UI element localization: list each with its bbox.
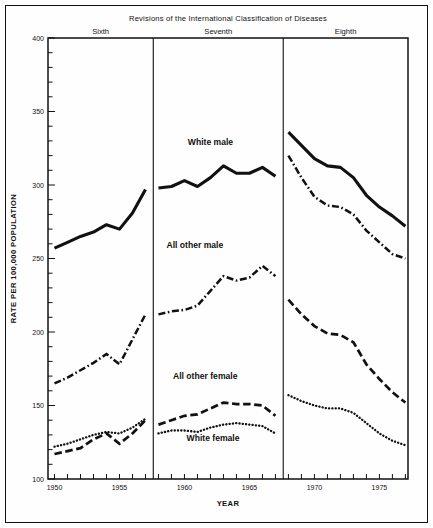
- x-tick-label-1965: 1965: [242, 484, 258, 491]
- period-label-eighth: Eighth: [335, 27, 357, 36]
- x-tick-label-1955: 1955: [112, 484, 128, 491]
- chart-canvas: Revisions of the International Classific…: [0, 0, 433, 528]
- y-tick-label-200: 200: [32, 329, 44, 336]
- series-label-all-other-female: All other female: [173, 371, 238, 381]
- series-label-white-female: White female: [187, 433, 240, 443]
- x-axis-title: YEAR: [217, 499, 240, 508]
- chart-figure: Revisions of the International Classific…: [0, 0, 433, 528]
- series-label-white-male: White male: [188, 137, 234, 147]
- series-all-other-female: All other female: [55, 300, 406, 454]
- y-tick-label-250: 250: [32, 255, 44, 262]
- y-tick-label-300: 300: [32, 182, 44, 189]
- series-segment-eighth: [288, 300, 405, 403]
- series-segment-seventh: [158, 266, 275, 315]
- x-tick-label-1975: 1975: [372, 484, 388, 491]
- y-tick-label-150: 150: [32, 402, 44, 409]
- series-segment-sixth: [55, 189, 146, 248]
- series-all-other-male: All other male: [55, 156, 406, 384]
- y-tick-label-350: 350: [32, 108, 44, 115]
- x-tick-label-1970: 1970: [307, 484, 323, 491]
- y-tick-label-100: 100: [32, 476, 44, 483]
- y-tick-label-400: 400: [32, 35, 44, 42]
- period-label-seventh: Seventh: [204, 27, 232, 36]
- series-white-male: White male: [55, 132, 406, 248]
- series-label-all-other-male: All other male: [166, 240, 223, 250]
- series-segment-sixth: [55, 420, 146, 454]
- series-segment-eighth: [288, 395, 405, 445]
- chart-title: Revisions of the International Classific…: [129, 14, 327, 23]
- period-label-sixth: Sixth: [92, 27, 109, 36]
- series-segment-seventh: [158, 403, 275, 425]
- y-axis-title: RATE PER 100,000 POPULATION: [9, 194, 18, 324]
- series-segment-seventh: [158, 166, 275, 188]
- series-segment-sixth: [55, 314, 146, 383]
- series-white-female: White female: [55, 395, 406, 446]
- x-tick-label-1960: 1960: [177, 484, 193, 491]
- x-tick-label-1950: 1950: [47, 484, 63, 491]
